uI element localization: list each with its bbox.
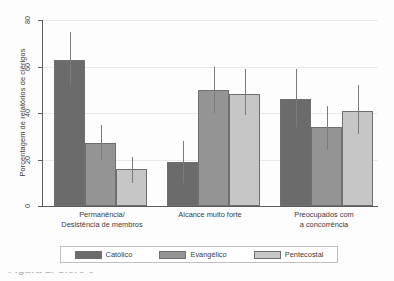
x-category-label-3-line1: Preocupados com (268, 210, 380, 220)
y-tick-label-40: 40 (19, 105, 37, 121)
figure-container: Porcentagem de relatórios de clérigos 80… (0, 0, 394, 281)
x-axis-line (39, 206, 378, 207)
plot-area: 80 60 40 20 0 (42, 20, 378, 206)
y-tick-label-60: 60 (19, 59, 37, 75)
x-category-label-2-line1: Alcance muito forte (155, 210, 265, 220)
error-bar-evangélico-group1 (101, 125, 102, 160)
y-tick-label-80: 80 (19, 12, 37, 28)
tick-mark-80 (38, 20, 42, 21)
legend-entry-evangelico[interactable]: Evangélico (159, 250, 226, 259)
error-bar-católico-group3 (296, 69, 297, 127)
figure-caption-cropped: Figura 1. Clero e (0, 272, 394, 281)
legend-swatch-pentecostal (254, 251, 281, 259)
x-category-label-3: Preocupados com a concorrência (268, 210, 380, 230)
error-bar-pentecostal-group2 (245, 69, 246, 116)
error-bar-pentecostal-group1 (132, 157, 133, 183)
bar-group-1 (54, 20, 147, 206)
x-category-label-1: Permanência/ Desistência de membros (42, 210, 162, 230)
x-category-label-2: Alcance muito forte (155, 210, 265, 220)
bar-group-2 (167, 20, 260, 206)
error-bar-evangélico-group2 (214, 67, 215, 114)
tick-mark-60 (38, 67, 42, 68)
error-bar-pentecostal-group3 (358, 85, 359, 134)
x-category-label-1-line1: Permanência/ (42, 210, 162, 220)
tick-mark-20 (38, 160, 42, 161)
legend-label-catolico: Católico (106, 250, 133, 259)
x-category-label-3-line2: a concorrência (268, 220, 380, 230)
legend-label-evangelico: Evangélico (190, 250, 226, 259)
x-category-label-1-line2: Desistência de membros (42, 220, 162, 230)
tick-mark-0 (38, 206, 42, 207)
legend-entry-pentecostal[interactable]: Pentecostal (254, 250, 324, 259)
error-bar-católico-group1 (70, 32, 71, 85)
y-tick-label-20: 20 (19, 152, 37, 168)
figure-caption-text: Figura 1. Clero e (8, 272, 94, 275)
legend-swatch-evangelico (159, 251, 186, 259)
y-tick-label-0: 0 (19, 198, 37, 214)
bar-group-3 (280, 20, 373, 206)
legend: Católico Evangélico Pentecostal (60, 246, 338, 263)
legend-entry-catolico[interactable]: Católico (75, 250, 133, 259)
legend-label-pentecostal: Pentecostal (285, 250, 324, 259)
error-bar-evangélico-group3 (327, 106, 328, 150)
error-bar-católico-group2 (183, 141, 184, 183)
legend-swatch-catolico (75, 251, 102, 259)
tick-mark-40 (38, 113, 42, 114)
